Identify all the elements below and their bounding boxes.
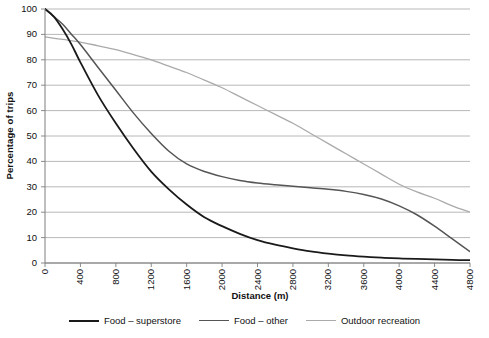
x-axis-tick-marks bbox=[45, 263, 470, 267]
legend-line-icon bbox=[306, 320, 336, 321]
legend-label: Food – other bbox=[234, 315, 288, 326]
data-series-layer bbox=[45, 9, 470, 260]
legend-line-icon bbox=[199, 320, 229, 321]
plot-area bbox=[0, 0, 489, 338]
y-axis-tick-marks bbox=[41, 9, 45, 263]
chart-legend: Food – superstoreFood – otherOutdoor rec… bbox=[0, 315, 489, 326]
series-line bbox=[45, 37, 470, 212]
chart-container: Percentage of trips 10090807060504030201… bbox=[0, 0, 489, 338]
legend-label: Outdoor recreation bbox=[341, 315, 420, 326]
series-line bbox=[45, 9, 470, 260]
legend-line-icon bbox=[69, 320, 99, 322]
legend-item[interactable]: Food – superstore bbox=[69, 315, 181, 326]
legend-item[interactable]: Outdoor recreation bbox=[306, 315, 420, 326]
x-axis-title: Distance (m) bbox=[40, 290, 480, 301]
legend-item[interactable]: Food – other bbox=[199, 315, 288, 326]
gridlines bbox=[45, 9, 470, 263]
series-line bbox=[45, 9, 470, 252]
legend-label: Food – superstore bbox=[104, 315, 181, 326]
